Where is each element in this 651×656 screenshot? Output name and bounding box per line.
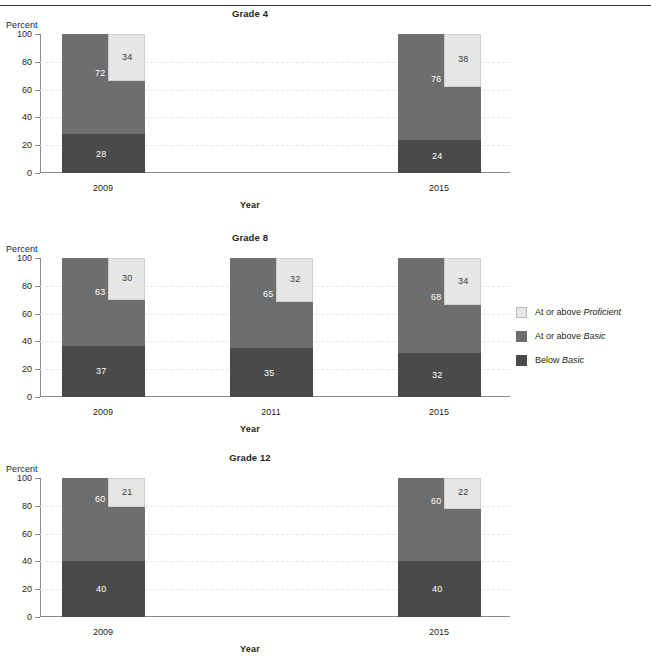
x-tick-label-2015: 2015 bbox=[429, 627, 449, 637]
header-cut-text bbox=[6, 0, 646, 4]
y-tick-label-80: 80 bbox=[22, 501, 32, 511]
legend-label-basic: At or above Basic bbox=[535, 331, 606, 341]
x-tick-label-2011: 2011 bbox=[261, 407, 280, 417]
x-tick-label-2009: 2009 bbox=[93, 183, 113, 193]
value-label-basic: 60 bbox=[431, 497, 441, 506]
chart-legend: At or above ProficientAt or above BasicB… bbox=[516, 300, 651, 372]
y-tick-0 bbox=[35, 617, 40, 618]
legend-item-proficient[interactable]: At or above Proficient bbox=[516, 300, 651, 324]
stacked-bar[interactable]: 387624 bbox=[398, 34, 481, 173]
plot-area-grade-8: 1008060402003063372009326535201134683220… bbox=[40, 258, 510, 397]
stacked-bar[interactable]: 347228 bbox=[62, 34, 145, 173]
y-tick-label-100: 100 bbox=[17, 29, 32, 39]
x-axis-label-grade-12: Year bbox=[0, 644, 500, 654]
y-tick-40 bbox=[35, 561, 40, 562]
y-tick-80 bbox=[35, 62, 40, 63]
panel-title-grade-12: Grade 12 bbox=[0, 452, 500, 463]
y-tick-label-0: 0 bbox=[27, 168, 32, 178]
legend-label-proficient: At or above Proficient bbox=[535, 307, 621, 317]
panel-title-grade-8: Grade 8 bbox=[0, 232, 500, 243]
stacked-bar[interactable]: 346832 bbox=[398, 258, 481, 397]
header-rule bbox=[0, 5, 651, 6]
value-label-proficient: 30 bbox=[122, 274, 132, 283]
y-tick-label-40: 40 bbox=[22, 112, 32, 122]
value-label-basic: 60 bbox=[95, 495, 105, 504]
y-tick-20 bbox=[35, 369, 40, 370]
y-tick-60 bbox=[35, 534, 40, 535]
y-tick-label-20: 20 bbox=[22, 140, 32, 150]
value-label-proficient: 34 bbox=[458, 277, 468, 286]
legend-swatch-below bbox=[516, 355, 527, 366]
y-tick-label-20: 20 bbox=[22, 584, 32, 594]
stacked-bar[interactable]: 326535 bbox=[230, 258, 313, 397]
y-tick-label-0: 0 bbox=[27, 612, 32, 622]
x-axis-label-grade-4: Year bbox=[0, 200, 500, 210]
y-axis-line bbox=[40, 478, 41, 617]
value-label-below-basic: 32 bbox=[432, 371, 442, 380]
y-tick-20 bbox=[35, 589, 40, 590]
y-tick-label-60: 60 bbox=[22, 529, 32, 539]
y-tick-60 bbox=[35, 90, 40, 91]
y-tick-label-80: 80 bbox=[22, 57, 32, 67]
x-axis-label-grade-8: Year bbox=[0, 424, 500, 434]
y-tick-label-60: 60 bbox=[22, 85, 32, 95]
value-label-basic: 76 bbox=[431, 75, 441, 84]
legend-item-basic[interactable]: At or above Basic bbox=[516, 324, 651, 348]
y-axis-line bbox=[40, 258, 41, 397]
y-tick-20 bbox=[35, 145, 40, 146]
value-label-proficient: 38 bbox=[458, 55, 468, 64]
y-tick-0 bbox=[35, 173, 40, 174]
value-label-below-basic: 37 bbox=[96, 367, 106, 376]
stacked-bar[interactable]: 216040 bbox=[62, 478, 145, 617]
y-tick-100 bbox=[35, 258, 40, 259]
x-tick-label-2015: 2015 bbox=[429, 407, 449, 417]
y-tick-0 bbox=[35, 397, 40, 398]
value-label-basic: 68 bbox=[431, 293, 441, 302]
chart-panel-grade-4: Grade 4Percent10080604020034722820093876… bbox=[0, 8, 651, 216]
value-label-below-basic: 35 bbox=[264, 369, 274, 378]
stacked-bar[interactable]: 226040 bbox=[398, 478, 481, 617]
y-tick-label-20: 20 bbox=[22, 364, 32, 374]
legend-item-below[interactable]: Below Basic bbox=[516, 348, 651, 372]
plot-area-grade-4: 10080604020034722820093876242015 bbox=[40, 34, 510, 173]
plot-area-grade-12: 10080604020021604020092260402015 bbox=[40, 478, 510, 617]
y-tick-40 bbox=[35, 341, 40, 342]
value-label-proficient: 21 bbox=[122, 488, 132, 497]
y-tick-100 bbox=[35, 478, 40, 479]
y-tick-label-100: 100 bbox=[17, 473, 32, 483]
stacked-bar[interactable]: 306337 bbox=[62, 258, 145, 397]
y-tick-60 bbox=[35, 314, 40, 315]
value-label-proficient: 22 bbox=[458, 488, 468, 497]
value-label-below-basic: 40 bbox=[432, 585, 442, 594]
panel-title-grade-4: Grade 4 bbox=[0, 8, 500, 19]
value-label-basic: 63 bbox=[95, 288, 105, 297]
x-tick-label-2015: 2015 bbox=[429, 183, 449, 193]
value-label-proficient: 34 bbox=[122, 53, 132, 62]
value-label-below-basic: 28 bbox=[96, 150, 106, 159]
legend-swatch-basic bbox=[516, 331, 527, 342]
value-label-below-basic: 24 bbox=[432, 152, 442, 161]
value-label-basic: 72 bbox=[95, 69, 105, 78]
x-tick-label-2009: 2009 bbox=[93, 407, 113, 417]
y-tick-80 bbox=[35, 286, 40, 287]
chart-panel-grade-12: Grade 12Percent1008060402002160402009226… bbox=[0, 452, 651, 656]
y-tick-label-0: 0 bbox=[27, 392, 32, 402]
y-tick-80 bbox=[35, 506, 40, 507]
y-tick-label-40: 40 bbox=[22, 336, 32, 346]
legend-label-below: Below Basic bbox=[535, 355, 584, 365]
y-tick-40 bbox=[35, 117, 40, 118]
y-tick-label-100: 100 bbox=[17, 253, 32, 263]
value-label-below-basic: 40 bbox=[96, 585, 106, 594]
y-tick-label-40: 40 bbox=[22, 556, 32, 566]
y-axis-line bbox=[40, 34, 41, 173]
legend-swatch-proficient bbox=[516, 307, 527, 318]
y-tick-label-80: 80 bbox=[22, 281, 32, 291]
y-tick-100 bbox=[35, 34, 40, 35]
y-tick-label-60: 60 bbox=[22, 309, 32, 319]
value-label-basic: 65 bbox=[263, 290, 273, 299]
x-tick-label-2009: 2009 bbox=[93, 627, 113, 637]
value-label-proficient: 32 bbox=[290, 275, 300, 284]
